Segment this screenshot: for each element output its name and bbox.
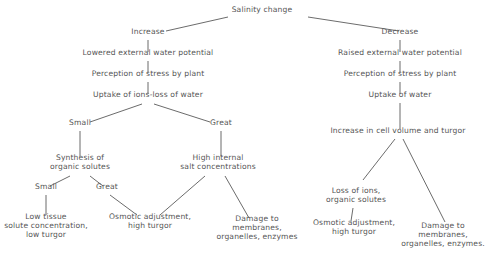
node-text-line: Great (210, 118, 232, 127)
node-text-line: High internal (180, 153, 256, 162)
node-text-line: Uptake of water (369, 90, 432, 99)
node-damage-left: Damage tomembranes,organelles, enzymes (216, 214, 297, 241)
node-text-line: Perception of stress by plant (344, 69, 457, 78)
node-text-line: organic solutes (326, 195, 386, 204)
node-text-line: Damage to (216, 214, 297, 223)
connector-line (160, 176, 205, 215)
node-increase: Increase (131, 27, 164, 36)
node-text-line: Raised external water potential (338, 48, 462, 57)
connector-line (90, 104, 142, 122)
node-perception-increase: Perception of stress by plant (92, 69, 205, 78)
connector-line (166, 17, 228, 31)
node-synthesis-organic-solutes: Synthesis oforganic solutes (50, 153, 110, 171)
node-text-line: Increase (131, 27, 164, 36)
node-text-line: Decrease (382, 27, 419, 36)
node-small-synthesis: Small (35, 182, 57, 191)
node-text-line: Osmotic adjustment, (313, 218, 395, 227)
node-text-line: Great (96, 182, 118, 191)
connector-line (403, 139, 445, 222)
node-text-line: low turgor (4, 230, 88, 239)
node-great-synthesis: Great (96, 182, 118, 191)
node-text-line: organelles, enzymes (216, 232, 297, 241)
node-text-line: high turgor (313, 227, 395, 236)
salinity-change-diagram: Salinity change Increase Lowered externa… (0, 0, 493, 253)
node-text-line: Loss of ions, (326, 186, 386, 195)
node-text-line: Small (69, 118, 91, 127)
node-uptake-water: Uptake of water (369, 90, 432, 99)
node-great-ion-uptake: Great (210, 118, 232, 127)
node-text-line: organic solutes (50, 162, 110, 171)
node-loss-of-ions: Loss of ions,organic solutes (326, 186, 386, 204)
node-damage-right: Damage tomembranes,organelles, enzymes. (401, 221, 485, 248)
node-raised-water-potential: Raised external water potential (338, 48, 462, 57)
node-text-line: Osmotic adjustment, (109, 212, 191, 221)
node-text-line: high turgor (109, 221, 191, 230)
node-text-line: membranes, (401, 230, 485, 239)
connector-line (363, 139, 395, 180)
node-text-line: Synthesis of (50, 153, 110, 162)
node-text-line: solute concentration, (4, 221, 88, 230)
connector-line (154, 104, 210, 122)
node-text-line: Lowered external water potential (83, 48, 214, 57)
node-text-line: Uptake of ions-loss of water (93, 90, 203, 99)
node-text-line: Low tissue (4, 212, 88, 221)
node-osmotic-adjustment-right: Osmotic adjustment,high turgor (313, 218, 395, 236)
node-decrease: Decrease (382, 27, 419, 36)
node-high-internal-salt: High internalsalt concentrations (180, 153, 256, 171)
connector-line (225, 176, 249, 218)
node-text-line: Damage to (401, 221, 485, 230)
node-text-line: Salinity change (232, 5, 293, 14)
node-text-line: salt concentrations (180, 162, 256, 171)
node-text-line: Increase in cell volume and turgor (330, 126, 465, 135)
node-text-line: organelles, enzymes. (401, 239, 485, 248)
node-lowered-water-potential: Lowered external water potential (83, 48, 214, 57)
node-small-ion-uptake: Small (69, 118, 91, 127)
node-low-tissue-solute: Low tissuesolute concentration,low turgo… (4, 212, 88, 239)
node-text-line: membranes, (216, 223, 297, 232)
node-text-line: Small (35, 182, 57, 191)
node-perception-decrease: Perception of stress by plant (344, 69, 457, 78)
node-root: Salinity change (232, 5, 293, 14)
node-uptake-ions-loss-water: Uptake of ions-loss of water (93, 90, 203, 99)
node-increase-cell-volume: Increase in cell volume and turgor (330, 126, 465, 135)
node-text-line: Perception of stress by plant (92, 69, 205, 78)
node-osmotic-adjustment-left: Osmotic adjustment,high turgor (109, 212, 191, 230)
